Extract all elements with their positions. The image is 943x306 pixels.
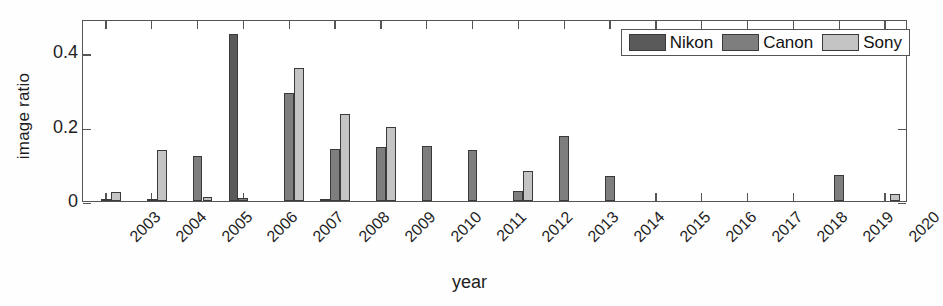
legend-swatch-icon (822, 34, 859, 51)
y-tick-mark (83, 129, 91, 130)
bar-group (366, 21, 396, 201)
bar-sony-2020 (890, 194, 900, 201)
bar-canon-2011 (468, 150, 478, 201)
legend-label: Sony (863, 34, 902, 51)
bar-group (91, 21, 121, 201)
legend-entry-sony[interactable]: Sony (822, 34, 902, 51)
x-tick-label: 2005 (218, 208, 256, 246)
bar-sony-2008 (340, 114, 350, 201)
bar-sony-2003 (111, 192, 121, 201)
chart-legend: NikonCanonSony (621, 29, 910, 56)
y-axis-tick-labels: 00.20.4 (26, 0, 78, 306)
x-tick-label: 2010 (447, 208, 485, 246)
bar-group (458, 21, 488, 201)
legend-swatch-icon (629, 34, 666, 51)
bar-canon-2012 (513, 191, 523, 201)
y-tick-mark (83, 54, 91, 55)
bar-canon-2003 (101, 199, 111, 201)
y-tick-label: 0.2 (32, 118, 78, 136)
bar-canon-2008 (330, 149, 340, 201)
x-tick-label: 2014 (631, 208, 669, 246)
x-tick-label: 2009 (401, 208, 439, 246)
legend-entry-nikon[interactable]: Nikon (629, 34, 713, 51)
x-tick-label: 2007 (310, 208, 348, 246)
x-tick-label: 2011 (493, 208, 530, 245)
x-tick-label: 2018 (814, 208, 852, 246)
bar-group (229, 21, 259, 201)
bar-sony-2004 (157, 150, 167, 201)
legend-entry-canon[interactable]: Canon (722, 34, 813, 51)
bar-canon-2013 (559, 136, 569, 201)
legend-label: Canon (763, 34, 813, 51)
bar-nikon-2008 (320, 199, 330, 201)
bar-group (412, 21, 442, 201)
bar-canon-2006 (238, 198, 248, 201)
x-axis-title: year (0, 272, 939, 293)
bar-group (274, 21, 304, 201)
x-axis-tick-labels: 2003200420052006200720082009201020112012… (82, 202, 907, 264)
bar-group (137, 21, 167, 201)
bar-canon-2019 (834, 175, 844, 201)
x-tick-label: 2015 (676, 208, 714, 246)
x-tick-label: 2006 (264, 208, 302, 246)
x-tick-label: 2008 (356, 208, 394, 246)
bar-canon-2014 (605, 176, 615, 201)
x-tick-label: 2013 (585, 208, 623, 246)
y-tick-label: 0 (32, 192, 78, 210)
y-tick-label: 0.4 (32, 43, 78, 61)
bar-nikon-2006 (229, 34, 239, 201)
x-tick-label: 2003 (126, 208, 164, 246)
bar-canon-2004 (147, 199, 157, 201)
bar-canon-2007 (284, 93, 294, 201)
bar-group (504, 21, 534, 201)
x-tick-label: 2012 (539, 208, 577, 246)
bar-group (549, 21, 579, 201)
bar-canon-2009 (376, 147, 386, 201)
bar-sony-2012 (523, 171, 533, 201)
legend-swatch-icon (722, 34, 759, 51)
x-tick-label: 2020 (906, 208, 943, 246)
bar-canon-2005 (193, 156, 203, 201)
bar-sony-2009 (386, 127, 396, 201)
x-tick-label: 2016 (722, 208, 760, 246)
x-tick-label: 2017 (768, 208, 806, 246)
bar-canon-2010 (422, 146, 432, 201)
x-tick-label: 2019 (860, 208, 898, 246)
x-tick-label: 2004 (172, 208, 210, 246)
legend-label: Nikon (670, 34, 713, 51)
bar-sony-2005 (203, 197, 213, 201)
bar-sony-2007 (294, 68, 304, 201)
bar-group (183, 21, 213, 201)
bar-group (320, 21, 350, 201)
